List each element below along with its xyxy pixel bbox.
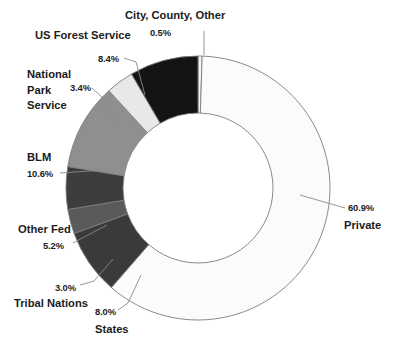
slice-percent-tribal-nations: 3.0% — [55, 282, 76, 294]
slice-percent-blm: 10.6% — [27, 168, 53, 180]
slice-label-tribal-nations: Tribal Nations — [14, 296, 88, 310]
slice-percent-other-fed: 5.2% — [43, 240, 64, 252]
slice-label-nps-line-3: Service — [27, 98, 71, 114]
slice-label-nps-line-2: Park — [27, 83, 71, 99]
slice-percent-states: 8.0% — [95, 306, 116, 318]
slice-label-blm: BLM — [27, 150, 51, 164]
slice-label-nps-line-1: National — [27, 67, 71, 83]
slice-label-private: Private — [344, 218, 381, 232]
slice-label-city-county-other: City, County, Other — [125, 8, 225, 22]
donut-slice-group — [66, 56, 330, 320]
slice-percent-city-county-other: 0.5% — [150, 27, 171, 39]
slice-label-states: States — [95, 322, 129, 336]
slice-label-us-forest-service: US Forest Service — [35, 28, 131, 42]
slice-percent-private: 60.9% — [348, 202, 374, 214]
slice-percent-national-park-service: 3.4% — [70, 82, 91, 94]
slice-percent-us-forest-service: 8.4% — [98, 53, 119, 65]
slice-label-national-park-service: National Park Service — [27, 67, 71, 114]
slice-label-other-fed: Other Fed — [18, 222, 71, 236]
donut-chart-page: City, County, Other 0.5% US Forest Servi… — [0, 0, 393, 349]
